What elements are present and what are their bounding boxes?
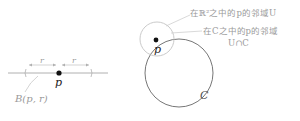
curve-label: C <box>200 90 208 101</box>
point-label-left: p <box>55 77 62 88</box>
annotation-plane-neighborhood: 在ℝ²之中的p的邻域U <box>190 9 276 18</box>
leader-u-cap-c <box>171 31 202 33</box>
point-p-right <box>154 38 159 43</box>
radius-right-label: r <box>72 57 76 65</box>
ball-label: B(p, r) <box>15 94 48 104</box>
radius-left-label: r <box>40 57 44 65</box>
ball-leader-line <box>25 76 38 92</box>
point-p-left <box>56 70 61 75</box>
leader-u <box>166 15 190 26</box>
point-label-right: p <box>154 44 161 55</box>
annotation-curve-neighborhood-line2: U∩C <box>228 39 249 48</box>
annotation-curve-neighborhood-line1: 在C之中的p的邻域 <box>203 27 278 36</box>
